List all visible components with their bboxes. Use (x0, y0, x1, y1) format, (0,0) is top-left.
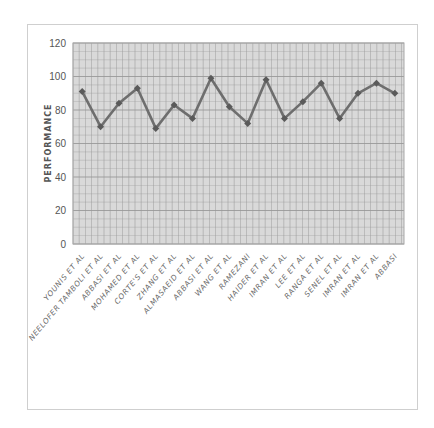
y-tick-label: 20 (55, 205, 67, 216)
y-axis-title: PERFORMANCE (44, 103, 53, 182)
x-category-label: NEELOFER TAMBOLI ET AL (27, 252, 105, 343)
y-tick-label: 120 (49, 38, 66, 49)
y-tick-label: 80 (55, 105, 67, 116)
y-tick-label: 100 (49, 71, 66, 82)
y-tick-label: 0 (60, 239, 66, 250)
y-tick-label: 60 (55, 138, 67, 149)
x-axis-labels: YOUNIS ET ALNEELOFER TAMBOLI ET ALABBASI… (27, 251, 400, 342)
line-chart: 020406080100120 PERFORMANCE YOUNIS ET AL… (0, 0, 434, 428)
y-tick-label: 40 (55, 172, 67, 183)
